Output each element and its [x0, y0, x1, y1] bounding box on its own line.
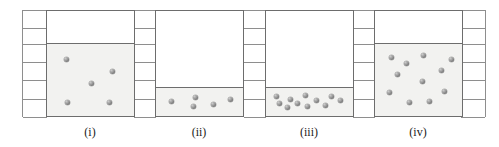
container-iv-fill-region [375, 43, 462, 116]
gas-particle [274, 94, 279, 99]
gas-particle [277, 101, 282, 106]
gas-particle [211, 102, 216, 107]
gas-particle [442, 89, 447, 94]
gas-particle [449, 57, 454, 62]
grid-rule-line [353, 80, 375, 81]
grid-rule-line [461, 62, 485, 63]
container-caption: (i) [60, 126, 120, 138]
container-caption: (iv) [388, 126, 448, 138]
gas-particle [395, 72, 400, 77]
container-iii-fill-region [266, 87, 353, 116]
grid-block [243, 10, 267, 117]
grid-rule-line [461, 99, 485, 100]
gas-particle [329, 94, 334, 99]
gas-particle [228, 97, 233, 102]
grid-rule-line [244, 117, 266, 118]
container-i [46, 10, 135, 117]
grid-rule-line [244, 28, 266, 29]
gas-particle [323, 103, 328, 108]
grid-rule-line [23, 99, 47, 100]
gas-particle [387, 90, 392, 95]
gas-particle [285, 105, 290, 110]
gas-particle [305, 104, 310, 109]
grid-rule-line [134, 80, 156, 81]
gas-particle [110, 69, 115, 74]
grid-rule-line [134, 99, 156, 100]
container-caption: (ii) [169, 126, 229, 138]
gas-particle [193, 95, 198, 100]
gas-particle [288, 97, 293, 102]
grid-rule-line [353, 117, 375, 118]
gas-particle [89, 81, 94, 86]
container-iii [265, 10, 354, 117]
grid-rule-line [23, 28, 47, 29]
container-iv [374, 10, 463, 117]
container-ii-fill-region [156, 87, 243, 116]
gas-particle [295, 101, 300, 106]
container-caption: (iii) [279, 126, 339, 138]
grid-rule-line [461, 44, 485, 45]
gas-particle [427, 99, 432, 104]
grid-rule-line [353, 44, 375, 45]
grid-rule-line [23, 44, 47, 45]
grid-rule-line [134, 28, 156, 29]
gas-particle [303, 93, 308, 98]
grid-block [22, 10, 48, 117]
grid-rule-line [244, 62, 266, 63]
gas-particle [407, 100, 412, 105]
grid-rule-line [461, 28, 485, 29]
grid-rule-line [134, 62, 156, 63]
grid-rule-line [353, 62, 375, 63]
grid-rule-line [244, 44, 266, 45]
gas-particle [169, 99, 174, 104]
gas-particle [421, 53, 426, 58]
grid-rule-line [134, 44, 156, 45]
grid-rule-line [23, 62, 47, 63]
gas-particle [420, 79, 425, 84]
gas-particle [338, 98, 343, 103]
gas-particle [439, 68, 444, 73]
grid-rule-line [23, 117, 47, 118]
gas-particle [107, 100, 112, 105]
grid-block [352, 10, 376, 117]
container-ii [155, 10, 244, 117]
grid-rule-line [461, 117, 485, 118]
gas-container-figure: (i)(ii)(iii)(iv) [0, 0, 499, 147]
gas-particle [64, 57, 69, 62]
gas-particle [389, 55, 394, 60]
grid-rule-line [23, 80, 47, 81]
grid-rule-line [353, 99, 375, 100]
grid-block [460, 10, 486, 117]
grid-rule-line [461, 80, 485, 81]
gas-particle [191, 104, 196, 109]
gas-particle [65, 100, 70, 105]
gas-particle [404, 61, 409, 66]
grid-rule-line [353, 28, 375, 29]
grid-rule-line [244, 80, 266, 81]
grid-rule-line [134, 117, 156, 118]
gas-particle [314, 98, 319, 103]
grid-rule-line [244, 99, 266, 100]
grid-block [133, 10, 157, 117]
container-i-fill-region [47, 43, 134, 116]
